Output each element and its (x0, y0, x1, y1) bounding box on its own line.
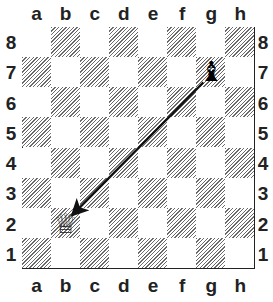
square-f8 (167, 27, 196, 57)
square-b4 (51, 148, 80, 178)
square-h7 (225, 57, 254, 87)
rank-label-left-7: 7 (1, 63, 21, 82)
square-d4 (109, 148, 138, 178)
square-a5 (22, 117, 51, 147)
file-label-bottom-h: h (226, 276, 255, 295)
file-label-bottom-d: d (109, 276, 138, 295)
file-label-top-b: b (51, 4, 80, 23)
rank-label-left-5: 5 (1, 124, 21, 143)
square-a3 (22, 178, 51, 208)
square-f6 (167, 87, 196, 117)
rank-label-left-1: 1 (1, 245, 21, 264)
file-label-bottom-e: e (139, 276, 168, 295)
square-d8 (109, 27, 138, 57)
rank-label-left-2: 2 (1, 215, 21, 234)
square-a8 (22, 27, 51, 57)
square-g6 (196, 87, 225, 117)
square-f2 (167, 208, 196, 238)
square-h4 (225, 148, 254, 178)
square-a7 (22, 57, 51, 87)
square-g1 (196, 238, 225, 268)
square-c1 (80, 238, 109, 268)
square-h6 (225, 87, 254, 117)
square-c4 (80, 148, 109, 178)
square-h5 (225, 117, 254, 147)
rank-label-right-4: 4 (253, 154, 273, 173)
rank-label-right-6: 6 (253, 94, 273, 113)
rank-label-right-2: 2 (253, 215, 273, 234)
rank-label-right-5: 5 (253, 124, 273, 143)
square-a4 (22, 148, 51, 178)
square-g4 (196, 148, 225, 178)
square-c3 (80, 178, 109, 208)
rank-label-right-8: 8 (253, 33, 273, 52)
square-e1 (138, 238, 167, 268)
square-h8 (225, 27, 254, 57)
square-d3 (109, 178, 138, 208)
file-label-bottom-g: g (197, 276, 226, 295)
square-g8 (196, 27, 225, 57)
square-f4 (167, 148, 196, 178)
square-h3 (225, 178, 254, 208)
square-e7 (138, 57, 167, 87)
file-label-bottom-c: c (80, 276, 109, 295)
file-label-top-c: c (80, 4, 109, 23)
file-label-top-f: f (168, 4, 197, 23)
square-h1 (225, 238, 254, 268)
square-e4 (138, 148, 167, 178)
file-label-bottom-b: b (51, 276, 80, 295)
file-label-top-d: d (109, 4, 138, 23)
square-d5 (109, 117, 138, 147)
square-g3 (196, 178, 225, 208)
square-b3 (51, 178, 80, 208)
file-label-top-g: g (197, 4, 226, 23)
square-f3 (167, 178, 196, 208)
square-e8 (138, 27, 167, 57)
square-e6 (138, 87, 167, 117)
file-label-top-e: e (139, 4, 168, 23)
rank-label-right-7: 7 (253, 63, 273, 82)
square-c2 (80, 208, 109, 238)
square-h2 (225, 208, 254, 238)
square-b8 (51, 27, 80, 57)
square-a1 (22, 238, 51, 268)
square-b5 (51, 117, 80, 147)
square-d7 (109, 57, 138, 87)
square-g5 (196, 117, 225, 147)
square-g2 (196, 208, 225, 238)
square-c6 (80, 87, 109, 117)
rank-label-right-1: 1 (253, 245, 273, 264)
black-bishop-icon: ♝ (197, 57, 226, 87)
square-d1 (109, 238, 138, 268)
rank-label-right-3: 3 (253, 184, 273, 203)
square-f7 (167, 57, 196, 87)
square-b7 (51, 57, 80, 87)
rank-label-left-3: 3 (1, 184, 21, 203)
rank-label-left-6: 6 (1, 94, 21, 113)
rank-label-left-8: 8 (1, 33, 21, 52)
file-label-top-a: a (22, 4, 51, 23)
square-f1 (167, 238, 196, 268)
square-d2 (109, 208, 138, 238)
square-e5 (138, 117, 167, 147)
square-d6 (109, 87, 138, 117)
file-label-bottom-a: a (22, 276, 51, 295)
white-queen-icon: ♕ (51, 209, 80, 239)
square-b1 (51, 238, 80, 268)
square-c7 (80, 57, 109, 87)
file-label-bottom-f: f (168, 276, 197, 295)
square-c8 (80, 27, 109, 57)
square-e2 (138, 208, 167, 238)
square-a2 (22, 208, 51, 238)
square-c5 (80, 117, 109, 147)
square-b6 (51, 87, 80, 117)
square-a6 (22, 87, 51, 117)
square-f5 (167, 117, 196, 147)
square-e3 (138, 178, 167, 208)
rank-label-left-4: 4 (1, 154, 21, 173)
file-label-top-h: h (226, 4, 255, 23)
